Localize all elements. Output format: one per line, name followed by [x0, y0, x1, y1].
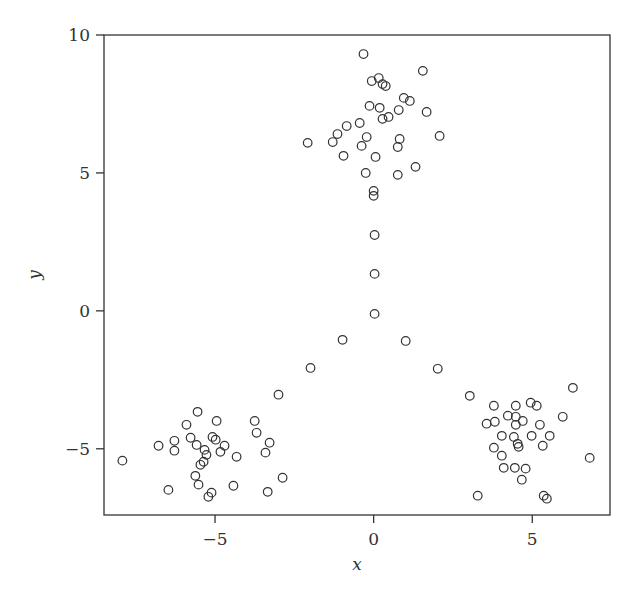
data-point [511, 401, 520, 410]
data-point [339, 152, 348, 161]
data-point [422, 108, 431, 117]
data-point [212, 417, 221, 426]
data-point [370, 310, 379, 319]
data-point [371, 153, 380, 162]
data-point [250, 417, 259, 426]
data-point [395, 135, 404, 144]
data-point [164, 486, 173, 495]
data-point [361, 169, 370, 178]
data-point [265, 438, 274, 447]
data-point [511, 464, 520, 473]
data-point [491, 417, 500, 426]
data-point [252, 428, 261, 437]
data-point [585, 454, 594, 463]
data-point [261, 448, 270, 457]
data-point [538, 441, 547, 450]
data-point [328, 138, 337, 147]
data-point [378, 115, 387, 124]
x-tick-label: −5 [203, 529, 228, 549]
data-point [393, 143, 402, 152]
data-point [384, 113, 393, 122]
data-point [232, 452, 241, 461]
data-point [200, 446, 209, 455]
data-point [370, 231, 379, 240]
data-point [191, 472, 200, 481]
data-point [365, 102, 374, 111]
data-point [362, 133, 371, 142]
data-point [498, 451, 507, 460]
data-point [490, 443, 499, 452]
data-point [435, 132, 444, 141]
x-tick-label: 0 [368, 529, 379, 549]
data-point [170, 446, 179, 455]
data-point [369, 187, 378, 196]
data-point [303, 139, 312, 148]
y-tick-label: −5 [65, 439, 90, 459]
data-point [274, 390, 283, 399]
data-point [342, 122, 351, 131]
data-points [118, 50, 594, 503]
data-point [536, 420, 545, 429]
data-point [521, 464, 530, 473]
data-point [394, 106, 403, 115]
data-point [499, 464, 508, 473]
data-point [393, 171, 402, 180]
y-axis-ticks: −50510 [65, 25, 104, 459]
data-point [220, 441, 229, 450]
y-tick-label: 5 [79, 163, 90, 183]
data-point [369, 192, 378, 201]
data-point [511, 420, 520, 429]
y-tick-label: 0 [79, 301, 90, 321]
y-axis-label: y [24, 270, 44, 281]
data-point [186, 433, 195, 442]
x-tick-label: 5 [527, 529, 538, 549]
data-point [375, 104, 384, 113]
y-tick-label: 10 [68, 25, 90, 45]
data-point [338, 336, 347, 345]
data-point [118, 456, 127, 465]
data-point [490, 401, 499, 410]
data-point [545, 432, 554, 441]
data-point [192, 441, 201, 450]
data-point [482, 419, 491, 428]
data-point [527, 432, 536, 441]
data-point [278, 473, 287, 482]
data-point [465, 392, 474, 401]
data-point [154, 441, 163, 450]
data-point [193, 408, 202, 417]
data-point [370, 270, 379, 279]
data-point [473, 491, 482, 500]
scatter-chart: −505 −50510 x y [0, 0, 643, 605]
data-point [357, 142, 366, 151]
data-point [514, 443, 523, 452]
data-point [170, 436, 179, 445]
x-axis-label: x [352, 554, 362, 574]
data-point [518, 475, 527, 484]
x-axis-ticks: −505 [203, 515, 538, 549]
plot-frame [104, 35, 610, 515]
data-point [504, 411, 513, 420]
data-point [359, 50, 368, 59]
data-point [263, 488, 272, 497]
data-point [229, 481, 238, 490]
data-point [419, 67, 428, 76]
data-point [411, 163, 420, 172]
data-point [182, 420, 191, 429]
data-point [194, 480, 203, 489]
data-point [216, 448, 225, 457]
data-point [355, 119, 364, 128]
data-point [333, 130, 342, 139]
data-point [306, 364, 315, 373]
data-point [401, 337, 410, 346]
data-point [498, 432, 507, 441]
data-point [569, 384, 578, 393]
data-point [433, 364, 442, 373]
data-point [558, 412, 567, 421]
